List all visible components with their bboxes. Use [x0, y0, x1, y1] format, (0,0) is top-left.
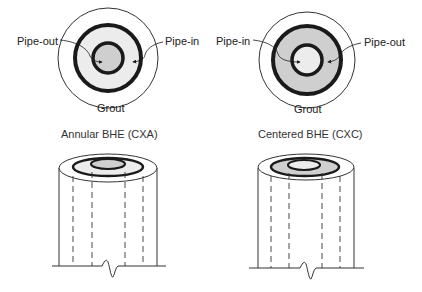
annular-bhe-caption: Annular BHE (CXA) [61, 129, 158, 140]
pipe-out-label-right: Pipe-out [364, 37, 405, 48]
grout-label-right: Grout [294, 104, 322, 115]
centered-cylinder [249, 154, 364, 279]
pipe-in-label: Pipe-in [165, 36, 199, 47]
pipe-in-label-right: Pipe-in [216, 36, 250, 47]
bhe-diagram-canvas [0, 0, 422, 292]
annular-cylinder [52, 154, 166, 277]
pipe-out-label: Pipe-out [17, 36, 58, 47]
grout-label: Grout [97, 103, 125, 114]
centered-cross-section [253, 12, 361, 108]
annular-cross-section [58, 8, 163, 108]
centered-bhe-caption: Centered BHE (CXC) [258, 129, 363, 140]
